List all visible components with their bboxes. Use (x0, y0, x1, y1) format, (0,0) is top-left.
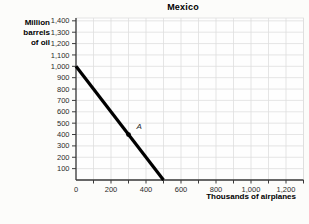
y-axis-label: Million barrels of oil (4, 18, 50, 48)
y-tick-label: 600 (57, 107, 70, 116)
y-tick-label: 1,200 (51, 39, 70, 48)
y-tick-label: 800 (57, 85, 70, 94)
y-tick-label: 200 (57, 153, 70, 162)
y-tick-label: 900 (57, 73, 70, 82)
plot-area (76, 18, 304, 180)
y-tick-label: 1,300 (51, 28, 70, 37)
ppf-chart-figure: 1002003004005006007008009001,0001,1001,2… (0, 0, 309, 224)
y-tick-label: 1,400 (51, 16, 70, 25)
chart-title: Mexico (76, 2, 290, 12)
point-a-label: A (136, 122, 142, 131)
y-tick-label: 300 (57, 141, 70, 150)
y-tick-label: 1,100 (51, 51, 70, 60)
point-a-marker (126, 132, 131, 137)
y-tick-label: 1,000 (51, 62, 70, 71)
y-axis-label-line: barrels (4, 28, 50, 38)
x-tick-label: 0 (74, 185, 78, 194)
y-tick-label: 500 (57, 119, 70, 128)
y-axis-label-line: Million (4, 18, 50, 28)
x-tick-label: 200 (105, 185, 118, 194)
y-tick-label: 400 (57, 130, 70, 139)
y-tick-label: 100 (57, 164, 70, 173)
x-tick-label: 600 (175, 185, 188, 194)
y-axis-label-line: of oil (4, 38, 50, 48)
x-axis-label: Thousands of airplanes (206, 192, 296, 201)
y-tick-label: 700 (57, 96, 70, 105)
x-tick-label: 400 (140, 185, 153, 194)
